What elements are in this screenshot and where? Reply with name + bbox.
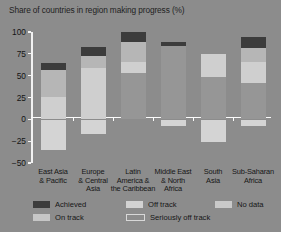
x-tick: [113, 118, 114, 121]
bar-segment-seriously: [161, 46, 186, 119]
bar-group[interactable]: [121, 32, 146, 163]
plot-area: 1007550250−25−50: [31, 32, 271, 163]
legend-item[interactable]: No data: [215, 200, 264, 209]
chart-title: Share of countries in region making prog…: [9, 5, 185, 15]
legend-label: On track: [55, 213, 84, 222]
bar-segment-nodata: [161, 120, 186, 126]
legend-item[interactable]: Off track: [126, 200, 177, 209]
bar-segment-nodata: [81, 120, 106, 134]
bar-segment-seriously: [201, 77, 226, 120]
y-tick: [28, 97, 31, 98]
y-tick: [28, 162, 31, 163]
chart-legend: AchievedOn trackOff trackSeriously off t…: [33, 200, 279, 228]
legend-item[interactable]: On track: [33, 213, 84, 222]
y-tick: [28, 53, 31, 54]
y-tick: [28, 119, 31, 120]
x-axis-label: Sub-SaharanAfrica: [222, 168, 281, 185]
x-tick: [233, 118, 234, 121]
bar-segment-offtrack: [41, 97, 66, 120]
bar-segment-achieved: [161, 42, 186, 46]
bar-group[interactable]: [241, 32, 266, 163]
legend-label: Off track: [148, 200, 177, 209]
y-tick: [28, 75, 31, 76]
x-axis-label-line: Africa: [222, 177, 281, 186]
bar-segment-ontrack: [121, 42, 146, 61]
bar-segment-nodata: [41, 120, 66, 150]
bar-segment-offtrack: [81, 68, 106, 120]
bar-segment-achieved: [81, 47, 106, 57]
y-tick: [28, 31, 31, 32]
y-tick-label: 50: [17, 71, 26, 81]
bar-segment-ontrack: [241, 48, 266, 62]
x-tick: [73, 118, 74, 121]
x-tick: [153, 118, 154, 121]
legend-swatch-icon: [33, 214, 50, 221]
bar-segment-achieved: [241, 37, 266, 47]
x-tick: [193, 118, 194, 121]
legend-item[interactable]: Seriously off track: [126, 213, 210, 222]
bar-segment-offtrack: [121, 62, 146, 73]
bar-segment-achieved: [121, 32, 146, 42]
bar-segment-achieved: [41, 63, 66, 71]
bar-segment-nodata: [241, 120, 266, 126]
legend-item[interactable]: Achieved: [33, 200, 86, 209]
legend-label: Achieved: [55, 200, 86, 209]
bar-segment-ontrack: [81, 56, 106, 67]
bar-group[interactable]: [201, 32, 226, 163]
bar-segment-offtrack: [201, 54, 226, 77]
y-tick-label: 25: [17, 93, 26, 103]
y-tick: [28, 141, 31, 142]
bar-group[interactable]: [161, 32, 186, 163]
y-tick-label: 75: [17, 49, 26, 59]
legend-label: Seriously off track: [150, 213, 210, 222]
x-axis-label-line: Africa: [142, 185, 204, 194]
bar-segment-seriously: [121, 73, 146, 119]
y-tick-label: 0: [21, 114, 26, 124]
bar-group[interactable]: [41, 32, 66, 163]
bar-segment-seriously: [241, 83, 266, 120]
legend-label: No data: [237, 200, 264, 209]
legend-swatch-icon: [126, 201, 143, 208]
y-tick-label: −25: [12, 136, 26, 146]
bar-segment-offtrack: [241, 62, 266, 83]
y-axis-line: [31, 32, 33, 163]
bar-group[interactable]: [81, 32, 106, 163]
y-tick-label: −50: [12, 158, 26, 168]
chart-figure: Share of countries in region making prog…: [0, 0, 281, 232]
y-tick-label: 100: [12, 27, 26, 37]
legend-swatch-icon: [33, 201, 50, 208]
bar-segment-ontrack: [41, 70, 66, 96]
zero-baseline: [31, 117, 271, 119]
legend-swatch-icon: [126, 214, 145, 221]
bar-segment-nodata: [201, 120, 226, 142]
legend-swatch-icon: [215, 201, 232, 208]
